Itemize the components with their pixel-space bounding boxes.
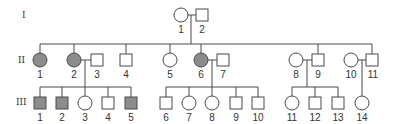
individual-II-9 [312,54,324,66]
individual-III-3 [78,96,92,110]
individual-III-8 [205,96,219,110]
individual-III-11 [285,96,299,110]
id-label: 2 [199,24,205,35]
id-label: 7 [186,112,192,123]
individual-III-9 [230,97,242,109]
id-label: 3 [94,69,100,80]
id-label: 1 [178,24,184,35]
id-label: 7 [220,69,226,80]
generation-label-I: I [22,10,26,20]
id-label: 12 [309,112,321,123]
individual-III-5 [125,97,137,109]
pedigree-chart: I II III 1 2 1 2 3 4 5 6 7 8 9 10 11 [0,0,408,124]
individual-III-6 [160,97,172,109]
individual-III-1 [34,97,46,109]
id-label: 6 [198,69,204,80]
generation-label-III: III [16,97,27,107]
id-label: 6 [163,112,169,123]
individual-II-7 [217,54,229,66]
id-label: 10 [252,112,264,123]
individual-II-10 [344,53,358,67]
individual-III-4 [102,97,114,109]
id-label: 3 [82,112,88,123]
id-label: 13 [332,112,344,123]
id-label: 9 [233,112,239,123]
individual-III-12 [309,97,321,109]
individual-III-13 [332,97,344,109]
id-label: 1 [37,69,43,80]
id-label: 1 [37,112,43,123]
individual-III-10 [252,97,264,109]
id-label: 11 [287,112,298,123]
individual-II-4 [120,54,132,66]
individual-II-2 [67,53,81,67]
individual-III-2 [56,97,68,109]
generation-label-II: II [18,55,26,65]
id-label: 10 [345,69,357,80]
id-label: 2 [71,69,77,80]
individual-II-6 [194,53,208,67]
individual-II-8 [289,53,303,67]
individual-III-14 [355,96,369,110]
id-label: 2 [59,112,65,123]
id-label: 14 [356,112,368,123]
individual-II-5 [163,53,177,67]
id-label: 8 [293,69,299,80]
individual-II-1 [33,53,47,67]
id-label: 9 [315,69,321,80]
individual-I-2 [196,9,208,21]
individual-II-11 [366,54,378,66]
id-label: 4 [105,112,111,123]
id-label: 11 [368,69,379,80]
id-label: 4 [123,69,129,80]
id-label: 5 [128,112,134,123]
individual-II-3 [91,54,103,66]
id-label: 8 [209,112,215,123]
id-label: 5 [167,69,173,80]
individual-III-7 [182,96,196,110]
individual-I-1 [174,8,188,22]
